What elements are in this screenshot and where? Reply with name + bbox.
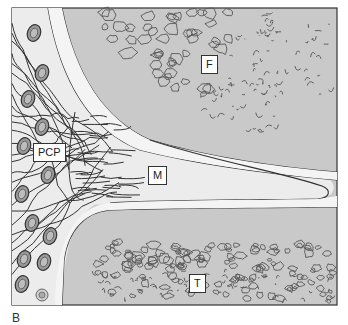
small-cell-inner: [39, 292, 45, 298]
label-t: T: [189, 274, 206, 293]
nerve-branch: [106, 197, 131, 198]
label-m: M: [148, 166, 167, 185]
panel-letter: B: [12, 311, 20, 325]
label-f: F: [201, 55, 218, 74]
label-pcp: PCP: [33, 143, 66, 162]
